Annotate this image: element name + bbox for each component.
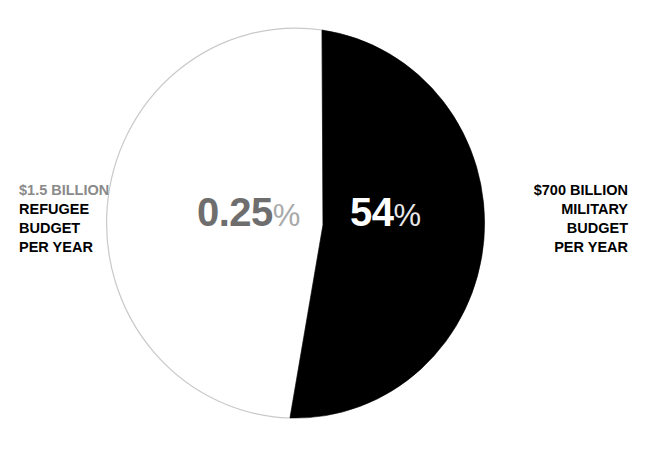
slice-value-refugee-budget: 0.25% — [197, 192, 300, 232]
slice-value-percent-right: % — [394, 198, 422, 233]
slice-value-number-left: 0.25 — [197, 190, 273, 234]
slice-value-percent-left: % — [273, 198, 301, 233]
callout-military-budget: $700 BILLION MILITARY BUDGET PER YEAR — [534, 181, 628, 257]
callout-left-line3: PER YEAR — [19, 238, 109, 257]
slice-value-military-budget: 54% — [350, 192, 421, 232]
slice-value-number-right: 54 — [350, 190, 394, 234]
chart-canvas: 0.25% 54% $1.5 BILLION REFUGEE BUDGET PE… — [0, 0, 645, 465]
callout-refugee-budget: $1.5 BILLION REFUGEE BUDGET PER YEAR — [19, 181, 109, 257]
callout-right-line3: PER YEAR — [534, 238, 628, 257]
callout-left-line1: REFUGEE — [19, 200, 109, 219]
callout-right-line1: MILITARY — [534, 200, 628, 219]
callout-right-amount: $700 BILLION — [534, 181, 628, 200]
callout-left-amount: $1.5 BILLION — [19, 181, 109, 200]
callout-left-line2: BUDGET — [19, 219, 109, 238]
callout-right-line2: BUDGET — [534, 219, 628, 238]
